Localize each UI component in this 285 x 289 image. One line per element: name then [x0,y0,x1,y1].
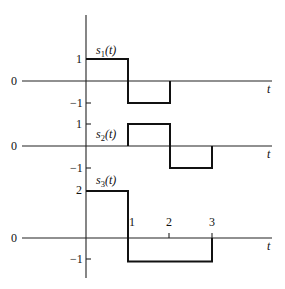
signal-label-s1: s1(t) [96,43,116,59]
ttick-label-2: 2 [166,215,172,229]
signal-label-s3: s3(t) [96,173,116,189]
zero-label-s1: 0 [11,74,17,88]
ytick-label-upper-s1: 1 [76,52,82,66]
ttick-label-1: 1 [129,215,135,229]
ytick-label-lower-s1: −1 [70,96,83,110]
ttick-label-3: 3 [209,215,215,229]
signal-waveforms-figure: 0 t 1 −1 s1(t) 0 t 1 −1 s2(t) 0 t 2 −1 1… [0,0,285,289]
panel-s3: 0 t 2 −1 1 2 3 s3(t) [11,173,272,266]
signal-label-s2: s2(t) [96,127,116,143]
panel-s2: 0 t 1 −1 s2(t) [11,117,272,175]
ytick-label-upper-s3: 2 [76,183,82,197]
ytick-label-lower-s3: −1 [70,252,83,266]
ytick-label-upper-s2: 1 [76,117,82,131]
time-label-s2: t [267,147,271,161]
waveform-s3 [86,191,212,262]
time-label-s3: t [267,239,271,253]
zero-label-s2: 0 [11,139,17,153]
zero-label-s3: 0 [11,231,17,245]
time-label-s1: t [267,82,271,96]
panel-s1: 0 t 1 −1 s1(t) [11,43,272,110]
ytick-label-lower-s2: −1 [70,161,83,175]
